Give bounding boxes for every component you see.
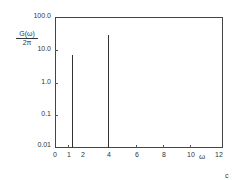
y-tick-10: 10.0	[21, 45, 51, 52]
x-tick-8: 8	[156, 151, 172, 158]
plot-area	[55, 17, 223, 148]
x-tickmark	[190, 145, 191, 148]
x-tick-2: 2	[75, 151, 91, 158]
x-tick-12: 12	[211, 151, 227, 158]
x-tickmark	[136, 145, 137, 148]
x-tick-6: 6	[129, 151, 145, 158]
spectral-line-2	[108, 35, 109, 148]
y-tickmark	[55, 50, 58, 51]
x-tick-4: 4	[101, 151, 117, 158]
x-tickmark	[68, 145, 69, 148]
y-tick-1: 1.0	[21, 78, 51, 85]
y-tickmark	[55, 115, 58, 116]
x-tick-10: 10	[183, 151, 199, 158]
spectral-line-1	[72, 55, 73, 148]
y-tickmark	[55, 83, 58, 84]
y-tick-0.1: 0.1	[21, 110, 51, 117]
x-axis-label: ω	[199, 152, 205, 161]
x-tickmark	[163, 145, 164, 148]
panel-label: c	[225, 172, 229, 179]
y-tick-100: 100.0	[21, 12, 51, 19]
y-tick-0.01: 0.01	[21, 141, 51, 148]
y-axis-label-numerator: G(ω)	[16, 30, 38, 39]
